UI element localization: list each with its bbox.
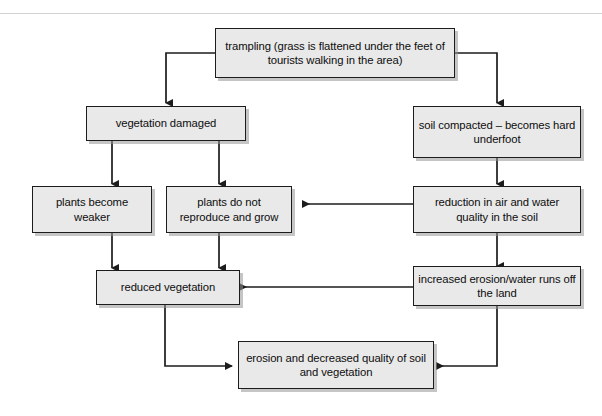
node-air-water-quality-label: reduction in air and water quality in th… [418,195,576,224]
node-vegetation-damaged[interactable]: vegetation damaged [86,106,246,141]
connector-trampling-to-vegetation-damaged [166,53,215,103]
node-plants-no-reproduce-label: plants do not reproduce and grow [171,195,287,224]
node-soil-compacted[interactable]: soil compacted – becomes hard underfoot [413,106,581,158]
flowchart-page: trampling (grass is flattened under the … [0,0,602,416]
node-erosion-decreased-quality[interactable]: erosion and decreased quality of soil an… [238,341,434,389]
node-increased-erosion[interactable]: increased erosion/water runs off the lan… [413,266,581,306]
node-reduced-vegetation[interactable]: reduced vegetation [96,270,240,305]
node-plants-no-reproduce[interactable]: plants do not reproduce and grow [166,186,292,233]
node-trampling-label: trampling (grass is flattened under the … [220,39,450,68]
node-erosion-decreased-quality-label: erosion and decreased quality of soil an… [243,351,429,380]
node-reduced-vegetation-label: reduced vegetation [121,280,215,295]
node-air-water-quality[interactable]: reduction in air and water quality in th… [413,186,581,233]
node-vegetation-damaged-label: vegetation damaged [116,116,217,131]
connector-trampling-to-soil-compacted [455,53,497,103]
node-trampling[interactable]: trampling (grass is flattened under the … [215,28,455,78]
node-plants-weaker-label: plants become weaker [37,195,147,224]
node-plants-weaker[interactable]: plants become weaker [32,186,152,233]
node-soil-compacted-label: soil compacted – becomes hard underfoot [418,118,576,147]
connector-reduced-vegetation-to-erosion-decreased-quality [165,305,232,366]
node-increased-erosion-label: increased erosion/water runs off the lan… [418,272,576,301]
connector-increased-erosion-to-erosion-decreased-quality [437,306,497,366]
